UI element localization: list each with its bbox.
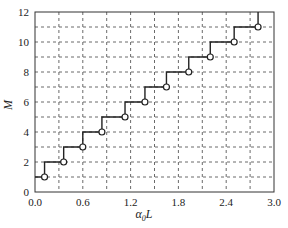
y-tick-label: 6: [24, 96, 30, 108]
x-tick-labels: 0.00.61.21.82.43.0: [28, 196, 281, 208]
x-tick-label: 2.4: [219, 196, 233, 208]
x-tick-label: 3.0: [267, 196, 281, 208]
data-point-marker: [61, 159, 67, 165]
x-tick-label: 1.8: [172, 196, 186, 208]
data-point-marker: [142, 99, 148, 105]
y-tick-label: 4: [24, 126, 30, 138]
step-line: [35, 12, 258, 177]
data-point-marker: [231, 39, 237, 45]
x-tick-label: 0.0: [28, 196, 42, 208]
chart: 024681012 0.00.61.21.82.43.0 M α0L: [0, 0, 288, 228]
y-tick-label: 8: [24, 66, 30, 78]
data-point-marker: [99, 129, 105, 135]
data-point-marker: [163, 84, 169, 90]
series-step-line: [35, 12, 261, 180]
y-tick-label: 10: [18, 36, 30, 48]
y-tick-label: 12: [18, 6, 29, 18]
y-axis-label: M: [1, 99, 15, 111]
data-point-marker: [122, 114, 128, 120]
x-axis-label: α0L: [136, 207, 153, 223]
data-point-marker: [80, 144, 86, 150]
data-point-marker: [42, 174, 48, 180]
y-tick-labels: 024681012: [18, 6, 30, 198]
grid: [35, 12, 274, 192]
x-tick-label: 0.6: [76, 196, 90, 208]
data-point-marker: [255, 24, 261, 30]
y-tick-label: 2: [24, 156, 30, 168]
data-point-marker: [186, 69, 192, 75]
data-point-marker: [207, 54, 213, 60]
